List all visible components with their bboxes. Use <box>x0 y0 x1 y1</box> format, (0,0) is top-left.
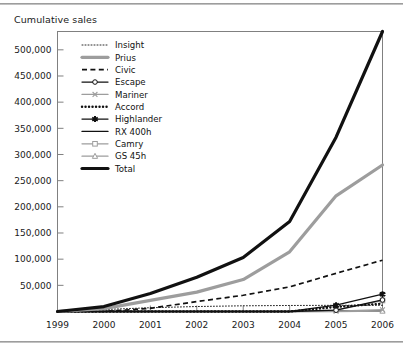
legend-item-highlander[interactable]: Highlander <box>82 114 163 124</box>
chart-legend: InsightPriusCivicEscapeMarinerAccordHigh… <box>82 40 163 174</box>
legend-label: Total <box>114 164 135 174</box>
legend-label: Escape <box>115 77 146 87</box>
x-axis-tick-label: 2000 <box>92 320 115 330</box>
x-axis-tick-labels: 19992000200120022003200420052006 <box>46 320 394 330</box>
y-axis-tick-labels: 50,000100,000150,000200,000250,000300,00… <box>14 45 51 291</box>
data-point-marker <box>92 153 97 158</box>
series-prius <box>58 165 383 312</box>
legend-label: GS 45h <box>115 151 146 161</box>
x-axis-tick-label: 1999 <box>46 320 69 330</box>
y-axis-ticks <box>58 50 64 286</box>
series-line <box>58 32 383 312</box>
legend-item-camry[interactable]: Camry <box>82 139 143 149</box>
legend-item-prius[interactable]: Prius <box>82 53 136 63</box>
x-axis-tick-label: 2006 <box>371 320 394 330</box>
legend-label: Highlander <box>115 114 163 124</box>
data-point-marker <box>333 302 339 308</box>
legend-item-escape[interactable]: Escape <box>82 77 146 87</box>
x-axis-tick-label: 2001 <box>139 320 162 330</box>
legend-label: Civic <box>115 65 136 75</box>
series-line <box>58 165 383 312</box>
data-series-layer <box>58 32 386 314</box>
legend-item-mariner[interactable]: Mariner <box>82 90 148 100</box>
y-axis-tick-label: 400,000 <box>14 97 51 107</box>
legend-label: Prius <box>115 53 136 63</box>
x-axis-tick-label: 2003 <box>232 320 255 330</box>
data-point-marker <box>380 308 385 313</box>
legend-item-accord[interactable]: Accord <box>82 102 144 112</box>
legend-item-insight[interactable]: Insight <box>82 40 145 50</box>
y-axis-tick-label: 200,000 <box>14 202 51 212</box>
y-axis-tick-label: 450,000 <box>14 71 51 81</box>
y-axis-tick-label: 250,000 <box>14 176 51 186</box>
chart-page: Cumulative sales 50,000100,000150,000200… <box>0 0 403 354</box>
y-axis-tick-label: 350,000 <box>14 124 51 134</box>
data-point-marker <box>92 116 98 122</box>
x-axis-tick-label: 2004 <box>278 320 301 330</box>
legend-label: Insight <box>115 40 145 50</box>
x-axis-tick-label: 2002 <box>185 320 208 330</box>
legend-item-civic[interactable]: Civic <box>82 65 136 75</box>
legend-item-total[interactable]: Total <box>82 164 135 174</box>
y-axis-tick-label: 150,000 <box>14 228 51 238</box>
y-axis-tick-label: 100,000 <box>14 254 51 264</box>
legend-label: Accord <box>115 102 144 112</box>
y-axis-tick-label: 500,000 <box>14 45 51 55</box>
x-axis-tick-label: 2005 <box>325 320 348 330</box>
data-point-marker <box>334 308 339 313</box>
cumulative-sales-line-chart: 50,000100,000150,000200,000250,000300,00… <box>0 0 403 354</box>
data-point-marker <box>93 142 98 147</box>
y-axis-tick-label: 50,000 <box>20 281 52 291</box>
data-point-marker <box>380 298 385 303</box>
legend-item-gs-45h[interactable]: GS 45h <box>82 151 146 161</box>
legend-label: Mariner <box>115 90 148 100</box>
legend-item-rx-400h[interactable]: RX 400h <box>82 127 151 137</box>
legend-label: Camry <box>115 139 143 149</box>
plot-frame <box>58 32 383 312</box>
legend-label: RX 400h <box>115 127 151 137</box>
y-axis-tick-label: 300,000 <box>14 150 51 160</box>
data-point-marker <box>380 291 386 297</box>
series-total <box>58 32 383 312</box>
data-point-marker <box>93 80 98 85</box>
